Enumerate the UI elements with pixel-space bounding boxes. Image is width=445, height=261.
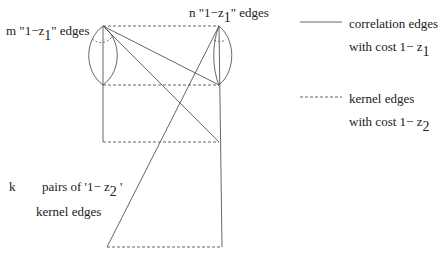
pairs-label-prefix: pairs of '1− z [42, 179, 110, 194]
left-lens-arc-right [103, 26, 117, 85]
legend-kernel-line1: kernel edges [349, 92, 414, 105]
left-group-label: m "1−z1" edges [6, 24, 89, 43]
left-lens-arc-left [89, 26, 103, 85]
legend-kernel-sub: 2 [422, 119, 429, 134]
legend-correlation-cost: with cost 1− z [349, 39, 422, 54]
legend-kernel-line2: with cost 1− z2 [349, 115, 429, 134]
right-vertical-edge [219, 26, 222, 247]
correlation-edge-3 [107, 26, 219, 247]
legend-correlation-line2: with cost 1− z1 [349, 40, 429, 59]
pairs-label-line2: kernel edges [36, 205, 101, 218]
correlation-edge-2 [103, 26, 219, 142]
pairs-label-line1: pairs of '1− z2 ' [42, 180, 122, 199]
pairs-label-sub: 2 [110, 184, 117, 199]
k-label: k [9, 180, 16, 193]
right-lens-arc-outer [219, 26, 232, 85]
legend-correlation-sub: 1 [422, 44, 429, 59]
left-lens-dotted-arc [92, 37, 112, 43]
pairs-label-suffix: ' [117, 179, 123, 194]
left-group-label-suffix: " edges [51, 23, 89, 38]
right-group-label-sub: 1 [224, 10, 231, 25]
left-group-label-prefix: m "1−z [6, 23, 44, 38]
legend-kernel-cost: with cost 1− z [349, 114, 422, 129]
legend-correlation-line1: correlation edges [349, 17, 438, 30]
right-group-label-suffix: " edges [231, 5, 269, 20]
diagram-canvas: m "1−z1" edges n "1−z1" edges correlatio… [0, 0, 445, 261]
right-group-label: n "1−z1" edges [189, 6, 269, 25]
right-group-label-prefix: n "1−z [189, 5, 224, 20]
correlation-edge-1 [103, 26, 219, 85]
